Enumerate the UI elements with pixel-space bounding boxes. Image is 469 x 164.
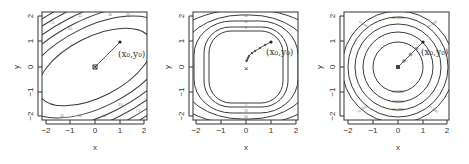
x-tick-label: −1 <box>65 126 75 135</box>
contour-label: 20.0855 <box>393 108 404 112</box>
y-axis-label: y <box>12 65 21 69</box>
x-tick-label: 2 <box>445 126 450 135</box>
y-tick-label: 1 <box>26 38 35 43</box>
contour-label: 15 <box>244 109 248 113</box>
contour-line <box>0 0 218 164</box>
contour-label: 2.71828 <box>393 90 404 94</box>
y-tick-label: 2 <box>328 13 337 18</box>
y-tick-label: −1 <box>328 87 337 97</box>
y-axis: −2 −1 0 1 2 y <box>12 13 42 120</box>
contour-label: 54.5982 <box>358 19 369 29</box>
y-axis: −2 −1 0 1 2 y <box>315 13 344 120</box>
contour-label: 54.5982 <box>357 104 368 114</box>
y-tick-label: 0 <box>328 64 337 69</box>
y-axis-label: y <box>315 65 324 69</box>
x-tick-label: −2 <box>41 126 51 135</box>
x-tick-label: 1 <box>421 126 426 135</box>
y-tick-label: −1 <box>26 87 35 97</box>
contour-label: 50 <box>244 14 248 18</box>
start-point-annotation: (x₀,y₀) <box>266 47 293 57</box>
x-tick-label: −1 <box>368 126 378 135</box>
x-tick-label: −2 <box>191 126 201 135</box>
contour-label: 54.5982 <box>427 19 438 29</box>
y-tick-label: −2 <box>177 111 186 121</box>
contour-label: 7.5 <box>136 109 141 113</box>
x-tick-label: 2 <box>294 126 299 135</box>
contour-label: 5 <box>245 103 247 107</box>
iterate-marker <box>251 52 253 54</box>
contour-label: 50 <box>244 115 248 119</box>
start-point-marker <box>118 40 121 43</box>
iterate-marker <box>259 47 261 49</box>
x-axis: −2 −1 0 1 2 x <box>41 120 146 152</box>
iterate-marker <box>264 44 266 46</box>
contour-label: 12 <box>78 14 82 18</box>
panel-2-quartic-contours: 5 5 15 15 50 50 × (x₀,y₀) −2 −1 <box>160 9 332 152</box>
contour-label: 16 <box>78 114 82 118</box>
start-point-annotation: (x₀,y₀) <box>118 49 145 59</box>
contour-label: 7.5 <box>50 21 55 25</box>
contour-line <box>0 0 233 164</box>
y-tick-label: 1 <box>177 38 186 43</box>
contour-label: 16 <box>108 13 112 17</box>
x-axis: −2 −1 0 1 2 x <box>191 120 298 152</box>
x-tick-label: −2 <box>343 126 353 135</box>
minimum-marker: × <box>244 64 249 73</box>
contour-label: 7.38906 <box>393 100 404 104</box>
y-axis: −2 −1 0 1 2 y <box>163 13 193 120</box>
y-tick-label: −2 <box>328 111 337 121</box>
figure: 3.5 3.5 7.5 7.5 12 12 16 16 20 20 (x₀,y₀… <box>0 0 469 164</box>
contour-label: 20.0855 <box>393 16 404 20</box>
x-axis-label: x <box>244 143 248 152</box>
x-tick-label: 2 <box>142 126 147 135</box>
iterate-marker <box>245 60 247 62</box>
panel-3-circular-contours: 2.71828 7.38906 20.0855 20.0855 54.5982 … <box>315 11 454 152</box>
y-tick-label: −1 <box>177 87 186 97</box>
y-tick-label: 1 <box>328 38 337 43</box>
start-point-marker <box>269 40 272 43</box>
descent-path <box>95 42 120 67</box>
contour-label: 3.5 <box>118 103 123 107</box>
y-tick-label: 2 <box>177 13 186 18</box>
start-point-marker <box>421 40 424 43</box>
contour-line <box>0 0 202 153</box>
end-point-marker <box>396 65 400 69</box>
contour-label: 12 <box>102 114 106 118</box>
contour-label: 3.5 <box>68 27 73 31</box>
iterate-marker <box>254 50 256 52</box>
x-axis: −2 −1 0 1 2 x <box>343 120 449 152</box>
x-tick-label: 0 <box>244 126 249 135</box>
y-tick-label: −2 <box>26 111 35 121</box>
x-tick-label: 1 <box>269 126 274 135</box>
y-axis-label: y <box>163 65 172 69</box>
x-axis-label: x <box>93 143 97 152</box>
contour-label: 20 <box>60 114 64 118</box>
contour-label: 20 <box>126 13 130 17</box>
x-tick-label: 0 <box>93 126 98 135</box>
y-tick-label: 0 <box>26 64 35 69</box>
start-point-annotation: (x₀,y₀) <box>421 47 448 57</box>
x-axis-label: x <box>396 143 400 152</box>
x-tick-label: −1 <box>216 126 226 135</box>
x-tick-label: 0 <box>396 126 401 135</box>
x-tick-label: 1 <box>118 126 123 135</box>
y-tick-label: 2 <box>26 13 35 18</box>
contour-label: 15 <box>244 20 248 24</box>
y-tick-label: 0 <box>177 64 186 69</box>
